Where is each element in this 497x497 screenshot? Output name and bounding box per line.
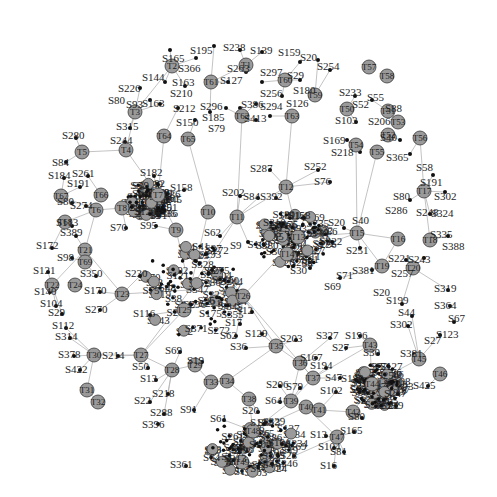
node-label: S40 [352, 214, 370, 226]
node-label: S81 [330, 445, 347, 457]
node-label: S364 [434, 299, 457, 311]
hub-label: T44 [365, 379, 380, 389]
leaf-node [194, 56, 198, 60]
leaf-node [270, 250, 274, 254]
node-label: S206 [368, 115, 391, 127]
node-label: S159 [278, 46, 301, 58]
node-label: S199 [386, 294, 409, 306]
node-label: S47 [325, 371, 343, 383]
hub-label: T9 [171, 225, 181, 235]
node-label: S194 [310, 359, 333, 371]
hub-label: T7 [153, 190, 163, 200]
leaf-node [260, 80, 264, 84]
node-label: S67 [448, 312, 466, 324]
node-label: S203 [280, 332, 303, 344]
node-label: S263 [227, 62, 250, 74]
node-label: S256 [260, 87, 283, 99]
leaf-node [161, 264, 165, 268]
node-label: S221 [199, 297, 222, 309]
hub-label: T46 [433, 369, 448, 379]
hub-label: T21 [78, 245, 93, 255]
node-label: S392 [260, 190, 283, 202]
leaf-node [312, 226, 316, 230]
hub-label: T11 [230, 212, 244, 222]
node-label: S286 [385, 204, 408, 216]
leaf-node [317, 224, 321, 228]
leaf-node [225, 439, 229, 443]
node-label: S365 [386, 151, 409, 163]
node-label: S80 [348, 410, 366, 422]
node-label: S327 [316, 329, 339, 341]
node-label: S413 [244, 112, 267, 124]
node-label: S302 [390, 318, 413, 330]
node-label: S422 [65, 363, 88, 375]
node-label: S275 [207, 264, 230, 276]
hub-label: T41 [312, 405, 327, 415]
node-label: S79 [208, 122, 226, 134]
hub-label: T39 [284, 396, 299, 406]
node-label: S19 [187, 354, 205, 366]
node-label: S361 [170, 458, 193, 470]
node-label: S212 [173, 102, 196, 114]
hub-label: T57 [362, 62, 377, 72]
node-label: S93 [126, 98, 144, 110]
node-label: S9 [230, 239, 242, 251]
node-label: S30 [363, 346, 381, 358]
node-label: S91 [180, 403, 197, 415]
node-label: S210 [263, 216, 286, 228]
node-label: S58 [416, 161, 434, 173]
leaf-node [216, 428, 220, 432]
node-label: S221 [388, 252, 411, 264]
network-graph: S356S21S41S119S36S355S204S117S347S243S29… [0, 0, 497, 497]
hub-node [264, 230, 275, 241]
node-label: S144 [142, 71, 165, 83]
hub-label: T63 [285, 111, 300, 121]
hub-label: T4 [121, 145, 131, 155]
node-label: S210 [170, 87, 193, 99]
node-label: S252 [304, 160, 327, 172]
node-label: S184 [48, 169, 71, 181]
node-label: S297 [260, 66, 283, 78]
node-label: S27 [205, 242, 223, 254]
hub-label: T65 [181, 134, 196, 144]
node-label: S38 [165, 292, 183, 304]
node-label: S44 [398, 306, 416, 318]
leaf-node [151, 259, 155, 263]
node-label: S22 [134, 394, 151, 406]
node-label: S181 [250, 416, 273, 428]
node-label: S389 [60, 226, 83, 238]
node-label: S170 [84, 284, 107, 296]
node-label: S335 [430, 228, 453, 240]
leaf-node [162, 270, 166, 274]
node-label: S50 [132, 360, 150, 372]
node-label: S208 [290, 256, 313, 268]
hub-label: T13 [291, 232, 306, 242]
node-label: S140 [34, 285, 57, 297]
hub-label: T28 [165, 365, 180, 375]
node-label: S80 [393, 190, 411, 202]
node-label: S79 [286, 380, 304, 392]
node-label: S28 [280, 449, 298, 461]
node-label: S158 [288, 209, 311, 221]
graph-edge [286, 116, 292, 187]
hub-label: T58 [380, 71, 395, 81]
node-label: S230 [125, 267, 148, 279]
node-label: S319 [434, 282, 457, 294]
hub-label: T5 [77, 147, 87, 157]
node-label: S8 [319, 234, 331, 246]
node-label: S59 [132, 179, 150, 191]
hub-label: T31 [80, 385, 95, 395]
hub-label: T56 [413, 133, 428, 143]
node-label: S88 [385, 102, 403, 114]
node-label: S378 [58, 348, 81, 360]
node-label: S103 [335, 114, 358, 126]
leaf-node [223, 425, 227, 429]
node-label: S243 [408, 253, 431, 265]
node-label: S257 [391, 267, 414, 279]
node-label: S214 [102, 349, 125, 361]
node-label: S195 [190, 44, 213, 56]
hub-label: T61 [204, 77, 219, 87]
hub-label: T15 [350, 228, 365, 238]
node-label: S95 [140, 219, 158, 231]
node-label: S150 [176, 116, 199, 128]
